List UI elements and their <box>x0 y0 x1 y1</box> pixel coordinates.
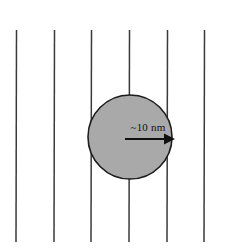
lattice-line-6 <box>204 30 205 242</box>
lattice-line-2 <box>54 30 55 242</box>
nanoparticle-circle <box>88 95 172 179</box>
figure-root: ~10 nm <box>0 0 226 252</box>
nanoparticle-group <box>88 95 172 179</box>
lattice-line-1 <box>16 30 17 242</box>
nanoparticle-diagram: ~10 nm <box>0 0 226 252</box>
scale-label: ~10 nm <box>131 121 166 133</box>
